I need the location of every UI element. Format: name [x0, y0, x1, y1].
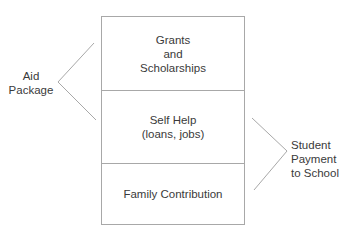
self-help-line-2: (loans, jobs) — [142, 127, 205, 141]
family-line-1: Family Contribution — [123, 187, 222, 201]
student-payment-bracket-icon — [252, 118, 287, 190]
student-payment-label: Student Payment to School — [291, 138, 339, 180]
aid-label-line-2: Package — [8, 83, 54, 97]
aid-package-bracket-icon — [58, 43, 96, 120]
self-help-line-1: Self Help — [142, 113, 205, 127]
grants-line-1: Grants — [140, 33, 206, 47]
grants-line-2: and — [140, 47, 206, 61]
payment-label-line-2: Payment — [291, 152, 339, 166]
grants-line-3: Scholarships — [140, 61, 206, 75]
grants-scholarships-box: Grants and Scholarships — [101, 17, 245, 90]
family-contribution-box: Family Contribution — [101, 164, 245, 224]
self-help-box: Self Help (loans, jobs) — [101, 91, 245, 163]
payment-label-line-3: to School — [291, 166, 339, 180]
aid-package-label: Aid Package — [8, 69, 54, 97]
financial-aid-diagram: Grants and Scholarships Self Help (loans… — [0, 0, 364, 242]
aid-label-line-1: Aid — [8, 69, 54, 83]
payment-label-line-1: Student — [291, 138, 339, 152]
